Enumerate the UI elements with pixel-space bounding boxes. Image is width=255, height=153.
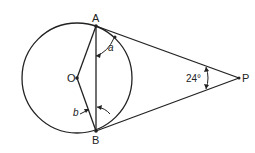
label-b: B xyxy=(92,134,99,146)
tangent-pa xyxy=(96,26,239,78)
point-b-dot xyxy=(94,129,98,133)
point-o-dot xyxy=(75,76,79,80)
angle-a-arc-end xyxy=(114,36,117,39)
label-a: A xyxy=(92,12,100,24)
angle-p-arrow-top xyxy=(204,67,209,72)
tangent-pb xyxy=(96,78,239,131)
angle-b-arrow-right xyxy=(97,105,102,110)
label-angle-b: b xyxy=(73,107,79,118)
geometry-diagram: A B O P a b 24° xyxy=(0,0,255,153)
radius-ob xyxy=(77,78,96,131)
label-angle-a: a xyxy=(108,42,114,53)
label-o: O xyxy=(67,72,76,84)
point-a-dot xyxy=(94,24,98,28)
radius-oa xyxy=(77,26,96,78)
point-p-dot xyxy=(238,77,241,80)
label-angle-p: 24° xyxy=(186,73,201,84)
angle-p-arrow-bottom xyxy=(204,84,209,89)
label-p: P xyxy=(242,72,249,84)
